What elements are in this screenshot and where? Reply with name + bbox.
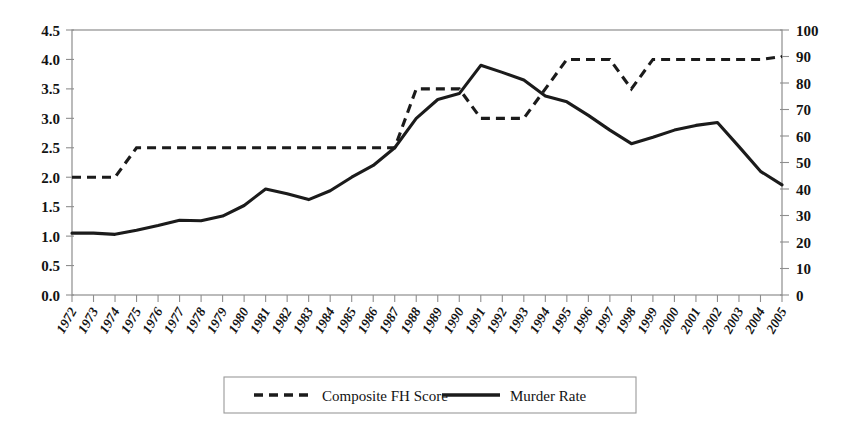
y-axis-right-tick-label: 90 [796,49,811,65]
x-axis-labels: 1972197319741975197619771978197919801981… [53,304,790,337]
y-axis-right-tick-label: 40 [796,182,811,198]
x-axis-tick-label: 1977 [161,304,188,336]
x-axis-tick-label: 1997 [591,304,618,336]
x-axis-tick-label: 1987 [376,304,403,336]
x-axis-tick-label: 1982 [268,305,295,336]
y-axis-left-tick-label: 0.5 [41,258,60,274]
x-axis-tick-label: 1991 [462,305,488,336]
x-axis-ticks [72,295,782,302]
y-axis-left-tick-label: 4.5 [41,23,60,39]
x-axis-tick-label: 1979 [204,305,231,336]
x-axis-tick-label: 2000 [655,305,682,337]
y-axis-right-tick-label: 30 [796,208,811,224]
x-axis-tick-label: 1995 [548,305,575,336]
x-axis-tick-label: 2002 [698,305,725,337]
y-axis-right-tick-label: 10 [796,261,811,277]
x-axis-tick-label: 2004 [741,305,768,337]
series-line-composite-fh-score [72,57,782,178]
x-axis-tick-label: 1984 [311,305,338,336]
x-axis-tick-label: 1992 [483,305,510,336]
chart-legend: Composite FH ScoreMurder Rate [224,377,636,413]
plot-frame [72,30,782,295]
x-axis-tick-label: 1999 [634,305,661,336]
y-axis-left-ticks [66,30,74,295]
y-axis-left-tick-label: 1.5 [41,199,60,215]
x-axis-tick-label: 2001 [677,305,704,337]
x-axis-tick-label: 1988 [397,305,424,336]
x-axis-tick-label: 1990 [440,305,467,336]
x-axis-tick-label: 1986 [354,305,381,336]
legend-label: Murder Rate [510,388,587,404]
y-axis-right-tick-label: 0 [796,288,804,304]
x-axis-tick-label: 1994 [526,305,553,336]
x-axis-tick-label: 2003 [720,305,747,337]
x-axis-tick-label: 1973 [75,305,102,336]
x-axis-tick-label: 1975 [118,305,145,336]
x-axis-tick-label: 1989 [419,305,446,336]
y-axis-right-tick-label: 50 [796,155,811,171]
y-axis-left-tick-label: 2.5 [41,140,60,156]
y-axis-right-tick-label: 20 [796,235,811,251]
x-axis-tick-label: 1976 [139,305,166,336]
x-axis-tick-label: 1972 [53,305,80,336]
y-axis-left-tick-label: 1.0 [41,229,60,245]
y-axis-right-tick-label: 70 [796,102,811,118]
y-axis-right-tick-label: 100 [796,23,819,39]
x-axis-tick-label: 1985 [333,305,360,336]
x-axis-tick-label: 1993 [505,305,532,336]
data-series-layer [72,57,782,235]
legend-label: Composite FH Score [322,388,448,404]
x-axis-tick-label: 1978 [182,305,209,336]
y-axis-left-labels: 0.00.51.01.52.02.53.03.54.04.5 [41,23,60,304]
y-axis-right-tick-label: 80 [796,76,811,92]
x-axis-tick-label: 1996 [569,305,596,336]
x-axis-tick-label: 1981 [247,305,273,336]
y-axis-left-tick-label: 3.5 [41,81,60,97]
x-axis-tick-label: 1998 [613,305,640,336]
x-axis-tick-label: 1980 [225,305,252,336]
y-axis-left-tick-label: 3.0 [41,111,60,127]
chart-container: 0.00.51.01.52.02.53.03.54.04.5 010203040… [0,0,866,432]
series-line-murder-rate [72,65,782,234]
x-axis-tick-label: 1983 [290,305,317,336]
y-axis-left-tick-label: 2.0 [41,170,60,186]
y-axis-right-tick-label: 60 [796,129,811,145]
x-axis-tick-label: 1974 [96,305,123,336]
y-axis-right-labels: 0102030405060708090100 [796,23,819,304]
y-axis-left-tick-label: 0.0 [41,288,60,304]
line-chart: 0.00.51.01.52.02.53.03.54.04.5 010203040… [0,0,866,432]
y-axis-left-tick-label: 4.0 [41,52,60,68]
x-axis-tick-label: 2005 [763,305,790,337]
plot-area-border [72,30,782,295]
y-axis-right-ticks [780,30,789,295]
